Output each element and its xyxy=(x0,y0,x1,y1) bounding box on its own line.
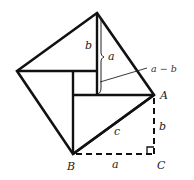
label-top-b: b xyxy=(85,39,92,52)
label-top-a: a xyxy=(108,50,115,63)
right-angle-marker xyxy=(147,147,154,154)
label-vertex-C: C xyxy=(157,159,166,172)
label-hyp-c: c xyxy=(114,125,120,138)
outer-square xyxy=(17,13,154,154)
pythagorean-diagram: b a a − b A c b B a C xyxy=(0,0,194,180)
brace-a xyxy=(98,16,104,94)
label-vertex-B: B xyxy=(66,160,75,173)
label-diff: a − b xyxy=(151,63,177,74)
label-vertex-A: A xyxy=(159,89,168,102)
label-bottom-a: a xyxy=(112,158,119,171)
label-right-b: b xyxy=(159,120,166,133)
